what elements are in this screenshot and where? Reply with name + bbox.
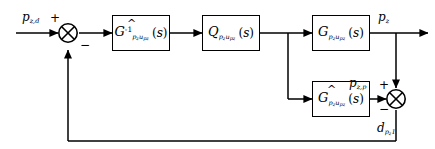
block-plant[interactable]: Gpzupz (s) <box>312 15 370 51</box>
q-filter-subscript: pzupz <box>219 33 236 41</box>
reference-signal-label: pz,d <box>22 11 39 25</box>
q-filter-symbol: Qpzupz <box>208 25 236 41</box>
block-q-filter[interactable]: Qpzupz (s) <box>202 15 260 51</box>
plant-subscript: pzupz <box>329 33 346 41</box>
plant-model-arg: (s) <box>348 93 364 105</box>
disturbance-junction-plus-sign: + <box>379 79 389 91</box>
block-diagram-canvas: + − + − ^ G-1pzupz (s) Qpzupz (s) Gpzupz <box>0 0 435 149</box>
model-output-signal-label: pz,p <box>349 77 366 91</box>
plant-symbol: Gpzupz <box>318 25 345 41</box>
disturbance-junction-minus-sign: − <box>379 103 389 115</box>
error-junction-minus-sign: − <box>80 39 90 51</box>
error-junction-plus-sign: + <box>50 12 60 24</box>
plant-model-symbol: ^ Gpzupz <box>318 91 345 107</box>
q-filter-arg: (s) <box>238 27 254 39</box>
error-summing-junction <box>57 22 79 44</box>
inverse-model-arg: (s) <box>152 27 168 39</box>
block-inverse-model[interactable]: ^ G-1pzupz (s) <box>112 15 170 51</box>
inverse-model-symbol: ^ G-1pzupz <box>114 25 149 41</box>
output-signal-label: pz <box>378 11 389 25</box>
plant-model-subscript: pzupz <box>329 99 346 107</box>
inverse-model-subscript: pzupz <box>132 33 149 41</box>
plant-arg: (s) <box>348 27 364 39</box>
disturbance-signal-label: dpz1 <box>377 122 396 137</box>
